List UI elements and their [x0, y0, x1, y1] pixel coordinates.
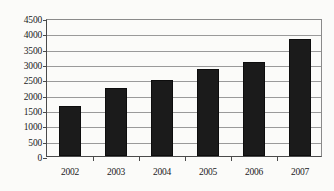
y-axis-tick-mark — [43, 66, 47, 67]
bar-2005 — [197, 69, 218, 156]
y-axis-tick-mark — [43, 35, 47, 36]
y-axis-tick-label: 1000 — [24, 122, 42, 132]
gridline — [47, 97, 321, 98]
y-axis-tick-mark — [43, 112, 47, 113]
y-axis-tick-label: 2000 — [24, 92, 42, 102]
y-axis-tick-label: 3000 — [24, 61, 42, 71]
y-axis-tick-mark — [43, 81, 47, 82]
gridline — [47, 81, 321, 82]
y-axis-tick-mark — [43, 127, 47, 128]
y-axis-tick-label: 4000 — [24, 30, 42, 40]
x-axis-tick-label: 2007 — [291, 167, 309, 177]
y-axis-tick-mark — [43, 158, 47, 159]
y-axis-tick-label: 0 — [37, 153, 42, 163]
y-axis-tick-mark — [43, 143, 47, 144]
x-axis-tick-label: 2002 — [61, 167, 79, 177]
x-axis-tick-mark — [277, 156, 278, 161]
gridline — [47, 35, 321, 36]
x-axis-tick-label: 2005 — [199, 167, 217, 177]
y-axis-tick-label: 4500 — [24, 15, 42, 25]
y-axis-tick-label: 2500 — [24, 76, 42, 86]
gridline — [47, 51, 321, 52]
bar-2007 — [289, 39, 310, 156]
x-axis-tick-label: 2003 — [107, 167, 125, 177]
x-axis-tick-label: 2004 — [153, 167, 171, 177]
bar-2004 — [151, 80, 172, 156]
gridline — [47, 143, 321, 144]
x-axis-tick-label: 2006 — [245, 167, 263, 177]
y-axis-tick-mark — [43, 51, 47, 52]
y-axis-tick-mark — [43, 97, 47, 98]
gridline — [47, 112, 321, 113]
plot-area: 0500100015002000250030003500400045002002… — [46, 19, 322, 157]
gridline — [47, 127, 321, 128]
x-axis-tick-mark — [93, 156, 94, 161]
bar-2002 — [59, 106, 80, 156]
y-axis-tick-label: 3500 — [24, 46, 42, 56]
bar-2003 — [105, 88, 126, 156]
x-axis-tick-mark — [139, 156, 140, 161]
y-axis-tick-label: 500 — [28, 138, 42, 148]
x-axis-tick-mark — [185, 156, 186, 161]
bar-2006 — [243, 62, 264, 156]
y-axis-tick-mark — [43, 20, 47, 21]
x-axis-tick-mark — [231, 156, 232, 161]
gridline — [47, 66, 321, 67]
y-axis-tick-label: 1500 — [24, 107, 42, 117]
bar-chart-figure: 0500100015002000250030003500400045002002… — [0, 0, 334, 191]
